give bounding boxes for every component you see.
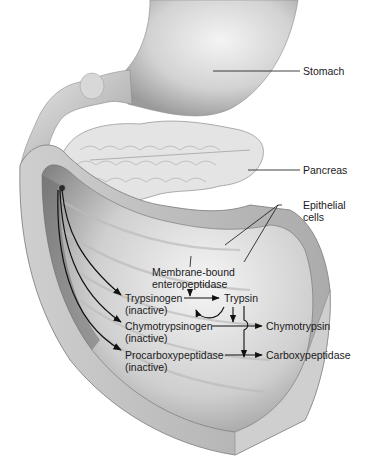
enteropeptidase-line1: Membrane-bound <box>152 266 235 278</box>
trypsinogen-state: (inactive) <box>125 304 182 316</box>
enteropeptidase-line2: enteropeptidase <box>152 278 235 290</box>
trypsinogen-label: Trypsinogen (inactive) <box>125 292 182 316</box>
epithelial-cells-line2: cells <box>303 211 346 223</box>
chymotrypsinogen-state: (inactive) <box>125 332 213 344</box>
chymotrypsin-label: Chymotrypsin <box>266 320 330 332</box>
chymotrypsinogen-name: Chymotrypsinogen <box>125 320 213 332</box>
stomach <box>126 0 298 116</box>
trypsinogen-name: Trypsinogen <box>125 292 182 304</box>
procarboxypeptidase-state: (inactive) <box>125 361 224 373</box>
carboxypeptidase-label: Carboxypeptidase <box>266 349 351 361</box>
epithelial-cells-label: Epithelial cells <box>303 199 346 223</box>
procarboxypeptidase-name: Procarboxypeptidase <box>125 349 224 361</box>
procarboxypeptidase-label: Procarboxypeptidase (inactive) <box>125 349 224 373</box>
stomach-label: Stomach <box>303 65 344 77</box>
trypsin-label: Trypsin <box>224 292 258 304</box>
enteropeptidase-label: Membrane-bound enteropeptidase <box>152 266 235 290</box>
pancreas-label: Pancreas <box>303 164 347 176</box>
epithelial-cells-line1: Epithelial <box>303 199 346 211</box>
chymotrypsinogen-label: Chymotrypsinogen (inactive) <box>125 320 213 344</box>
